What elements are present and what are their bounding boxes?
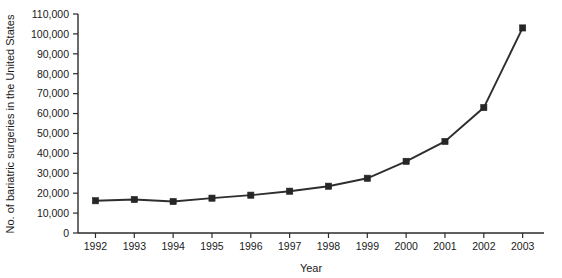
x-tick-label: 1994	[161, 240, 185, 252]
y-axis-group: 010,00020,00030,00040,00050,00060,00070,…	[31, 8, 78, 239]
data-point-marker	[248, 192, 254, 198]
data-point-marker	[131, 196, 137, 202]
data-point-marker	[287, 188, 293, 194]
x-tick-label: 1997	[278, 240, 302, 252]
x-axis-group: 1992199319941995199619971998199920002001…	[78, 233, 544, 252]
y-tick-label: 110,000	[32, 8, 69, 20]
bariatric-surgeries-line-chart: 010,00020,00030,00040,00050,00060,00070,…	[0, 0, 562, 278]
x-tick-label: 2001	[433, 240, 457, 252]
data-point-marker	[209, 195, 215, 201]
y-tick-label: 10,000	[37, 207, 69, 219]
data-point-marker	[364, 175, 370, 181]
series-line	[95, 28, 522, 202]
x-tick-label: 1993	[123, 240, 147, 252]
y-tick-label: 80,000	[37, 68, 69, 80]
data-point-marker	[325, 183, 331, 189]
x-tick-label: 1998	[317, 240, 341, 252]
data-series-group	[92, 25, 525, 205]
x-tick-label: 1996	[239, 240, 263, 252]
x-axis-title: Year	[300, 262, 323, 274]
y-tick-label: 0	[63, 227, 69, 239]
x-tick-label: 1992	[84, 240, 108, 252]
y-tick-label: 40,000	[37, 147, 69, 159]
x-tick-label: 1999	[356, 240, 380, 252]
y-tick-label: 100,000	[31, 28, 69, 40]
data-point-marker	[403, 158, 409, 164]
y-tick-label: 30,000	[37, 167, 69, 179]
y-tick-label: 90,000	[37, 48, 69, 60]
y-tick-label: 50,000	[37, 127, 69, 139]
data-point-marker	[481, 104, 487, 110]
y-tick-label: 60,000	[37, 107, 69, 119]
x-tick-label: 2002	[472, 240, 496, 252]
data-point-marker	[92, 198, 98, 204]
data-point-marker	[170, 198, 176, 204]
data-point-marker	[520, 25, 526, 31]
x-tick-label: 2000	[394, 240, 418, 252]
y-tick-label: 70,000	[37, 87, 69, 99]
y-tick-label: 20,000	[37, 187, 69, 199]
x-tick-label: 2003	[511, 240, 535, 252]
data-point-marker	[442, 138, 448, 144]
chart-canvas: 010,00020,00030,00040,00050,00060,00070,…	[0, 0, 562, 278]
y-axis-title: No. of bariatric surgeries in the United…	[4, 14, 16, 233]
x-tick-label: 1995	[200, 240, 224, 252]
